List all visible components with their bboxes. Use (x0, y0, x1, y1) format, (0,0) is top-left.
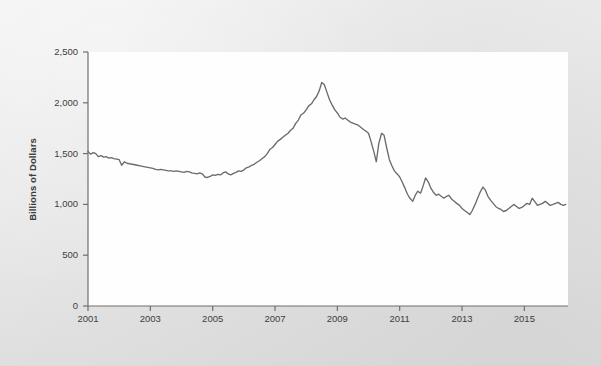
axis-lines (88, 52, 568, 306)
y-axis-tick-label: 500 (34, 249, 78, 260)
y-axis-tick-label: 2,000 (34, 97, 78, 108)
x-axis-tick-label: 2001 (68, 313, 108, 324)
y-axis-tick-label: 0 (34, 300, 78, 311)
x-axis-tick-label: 2013 (442, 313, 482, 324)
x-axis-tick-label: 2011 (380, 313, 420, 324)
y-axis-tick-label: 2,500 (34, 46, 78, 57)
data-series-group (88, 82, 566, 214)
data-series-line (88, 82, 566, 214)
chart-canvas (0, 0, 601, 366)
y-axis-tick-label: 1,500 (34, 148, 78, 159)
x-axis-tick-label: 2015 (504, 313, 544, 324)
y-axis-tick-marks (83, 52, 88, 306)
x-axis-tick-label: 2005 (193, 313, 233, 324)
x-axis-tick-marks (88, 306, 524, 311)
y-axis-tick-label: 1,000 (34, 198, 78, 209)
chart-figure: Billions of Dollars 2,5002,0001,5001,000… (0, 0, 601, 366)
x-axis-tick-label: 2003 (130, 313, 170, 324)
x-axis-tick-label: 2009 (317, 313, 357, 324)
x-axis-tick-label: 2007 (255, 313, 295, 324)
